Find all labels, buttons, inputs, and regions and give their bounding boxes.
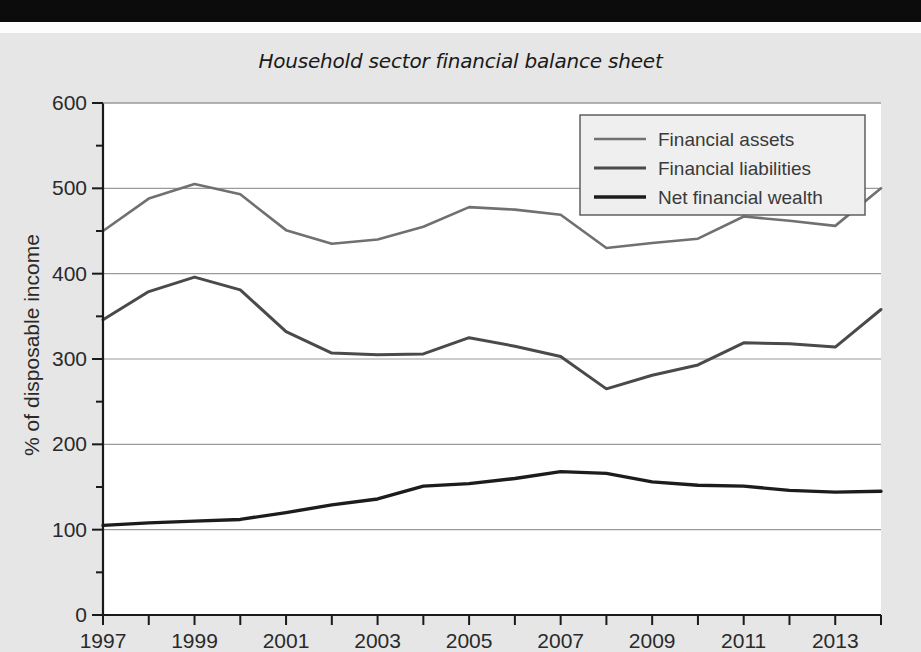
y-tick-label: 300 xyxy=(52,347,87,370)
chart-plot-svg: 0100200300400500600 19971999200120032005… xyxy=(0,33,921,652)
x-tick-label: 2003 xyxy=(354,629,401,652)
y-tick-label: 0 xyxy=(75,603,87,626)
legend-item-label[interactable]: Net financial wealth xyxy=(658,187,823,208)
chart-page-body: Household sector financial balance sheet… xyxy=(0,33,921,652)
x-tick-label: 2013 xyxy=(812,629,859,652)
y-tick-label: 400 xyxy=(52,262,87,285)
legend-item-label[interactable]: Financial assets xyxy=(658,129,794,150)
x-tick-label: 2011 xyxy=(721,629,766,652)
x-tick-label: 1999 xyxy=(171,629,218,652)
x-tick-label: 2001 xyxy=(263,629,310,652)
page-top-black-band xyxy=(0,0,921,22)
x-tick-label: 2007 xyxy=(537,629,584,652)
y-tick-label: 100 xyxy=(52,518,87,541)
x-tick-label: 2009 xyxy=(629,629,676,652)
page-top-white-band xyxy=(0,22,921,33)
y-tick-label: 500 xyxy=(52,176,87,199)
y-tick-label: 200 xyxy=(52,432,87,455)
chart-legend[interactable]: Financial assetsFinancial liabilitiesNet… xyxy=(580,115,865,215)
x-axis-ticks xyxy=(103,615,881,625)
y-tick-label: 600 xyxy=(52,91,87,114)
legend-item-label[interactable]: Financial liabilities xyxy=(658,158,811,179)
chart-figure: % of disposable income 01002003004005006… xyxy=(0,33,921,652)
x-tick-label: 1997 xyxy=(80,629,127,652)
x-tick-label: 2005 xyxy=(446,629,493,652)
x-axis-tick-labels: 199719992001200320052007200920112013 xyxy=(80,629,859,652)
y-axis-tick-labels: 0100200300400500600 xyxy=(52,91,87,626)
y-axis-ticks xyxy=(92,103,103,615)
